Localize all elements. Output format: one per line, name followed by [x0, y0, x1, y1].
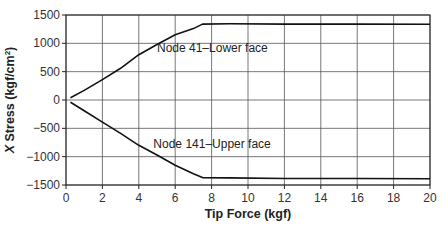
y-tick-label: 0	[53, 93, 60, 107]
y-axis-ticks: 150010005000−500−1000−1500	[26, 8, 66, 192]
x-tick-label: 4	[135, 191, 142, 205]
y-axis-title: X Stress (kgf/cm2)	[3, 47, 18, 155]
x-tick-label: 14	[314, 191, 328, 205]
y-tick-label: −500	[33, 121, 60, 135]
y-tick-label: 1000	[33, 36, 60, 50]
y-axis-title-rest: Stress (kgf/cm	[3, 55, 17, 145]
series-annotation: Node 141–Upper face	[153, 137, 271, 151]
x-axis-ticks: 02468101214161820	[63, 185, 437, 205]
x-tick-label: 10	[241, 191, 255, 205]
x-tick-label: 20	[423, 191, 437, 205]
stress-chart: 150010005000−500−1000−1500 0246810121416…	[0, 0, 444, 230]
y-tick-label: 1500	[33, 8, 60, 22]
y-axis-title-close: )	[3, 47, 17, 51]
chart-canvas: 150010005000−500−1000−1500 0246810121416…	[0, 0, 444, 230]
x-tick-label: 8	[208, 191, 215, 205]
x-axis-title: Tip Force (kgf)	[205, 207, 292, 221]
annotations: Node 41–Lower faceNode 141–Upper face	[153, 41, 271, 151]
x-tick-label: 18	[387, 191, 401, 205]
y-tick-label: 500	[40, 65, 60, 79]
x-tick-label: 12	[278, 191, 292, 205]
x-tick-label: 16	[351, 191, 365, 205]
x-tick-label: 0	[63, 191, 70, 205]
y-tick-label: −1000	[26, 150, 60, 164]
y-tick-label: −1500	[26, 178, 60, 192]
x-tick-label: 2	[99, 191, 106, 205]
series-line	[71, 24, 431, 98]
series-annotation: Node 41–Lower face	[157, 41, 268, 55]
x-tick-label: 6	[172, 191, 179, 205]
